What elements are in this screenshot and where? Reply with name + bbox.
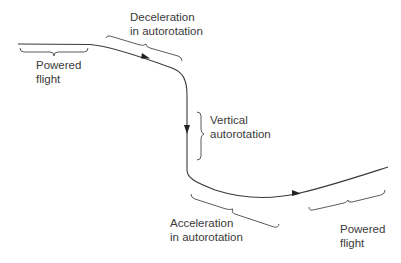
label-line: Deceleration (130, 10, 203, 24)
brace-vertical (197, 112, 204, 160)
label-deceleration: Deceleration in autorotation (130, 10, 203, 38)
label-line: autorotation (210, 127, 271, 141)
label-line: Powered (340, 222, 385, 236)
direction-arrow-deceleration (141, 53, 150, 59)
label-line: Powered (36, 58, 81, 72)
direction-arrow-vertical (184, 125, 190, 134)
label-line: in autorotation (170, 230, 243, 244)
direction-arrow-acceleration (292, 190, 301, 196)
label-powered-flight-start: Powered flight (36, 58, 81, 86)
label-line: Acceleration (170, 216, 243, 230)
label-line: flight (36, 72, 81, 86)
brace-powered-flight-end (309, 190, 385, 210)
label-powered-flight-end: Powered flight (340, 222, 385, 250)
label-line: in autorotation (130, 24, 203, 38)
brace-powered-flight-start (20, 48, 88, 56)
label-acceleration: Acceleration in autorotation (170, 216, 243, 244)
label-line: flight (340, 236, 385, 250)
label-line: Vertical (210, 113, 271, 127)
label-vertical: Vertical autorotation (210, 113, 271, 141)
